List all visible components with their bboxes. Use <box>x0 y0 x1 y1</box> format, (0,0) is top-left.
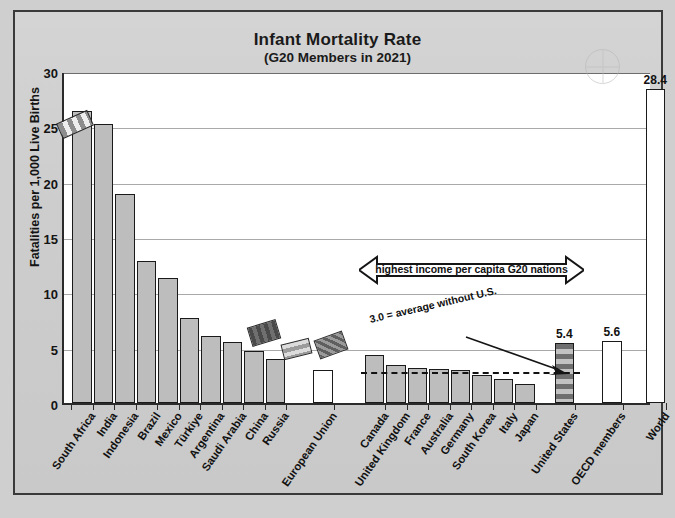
average-note-label: 3.0 = average without U.S. <box>368 284 497 325</box>
gridline <box>64 73 650 74</box>
x-axis-tick-mark <box>407 403 408 410</box>
y-axis-tick-label: 20 <box>26 176 58 191</box>
x-axis-tick-mark <box>200 403 201 410</box>
flag-chip-icon <box>280 338 312 361</box>
x-axis-tick-mark <box>471 403 472 410</box>
flag-chip-icon <box>313 330 348 359</box>
x-axis-tick-mark <box>428 403 429 410</box>
bar <box>494 379 514 403</box>
x-axis-tick-mark <box>265 403 266 410</box>
globe-watermark-icon <box>585 49 620 84</box>
income-range-label: highest income per capita G20 nations <box>359 263 584 275</box>
bar <box>244 351 264 403</box>
y-axis-ticks: 051015202530 <box>18 73 58 405</box>
bar: 5.6 <box>602 341 622 403</box>
x-axis-tick-mark <box>243 403 244 410</box>
x-axis-tick-mark <box>179 403 180 410</box>
x-axis-tick-mark <box>623 403 624 410</box>
bar <box>115 194 135 403</box>
average-leader-arrow-icon <box>464 335 569 377</box>
bar <box>94 124 114 403</box>
x-axis-tick-mark <box>575 403 576 410</box>
y-axis-tick-label: 25 <box>26 121 58 136</box>
bar <box>313 370 333 403</box>
plot-area: 5.45.628.4 highest income per capita G20… <box>62 73 650 405</box>
bar <box>472 375 492 403</box>
flag-chip-icon <box>247 319 282 347</box>
x-axis-tick-mark <box>222 403 223 410</box>
bar <box>72 111 92 403</box>
bar <box>137 261 157 403</box>
x-axis-tick-mark <box>385 403 386 410</box>
bar <box>180 318 200 403</box>
x-axis-tick-mark <box>493 403 494 410</box>
bar <box>365 355 385 403</box>
bar <box>515 384 535 403</box>
x-axis-tick-mark <box>136 403 137 410</box>
x-axis-tick-mark <box>157 403 158 410</box>
y-axis-tick-label: 5 <box>26 342 58 357</box>
x-axis-tick-mark <box>286 403 287 410</box>
y-axis-tick-label: 10 <box>26 287 58 302</box>
x-axis-tick-mark <box>514 403 515 410</box>
x-axis-tick-mark <box>536 403 537 410</box>
gridline <box>64 128 650 129</box>
bar <box>266 359 286 403</box>
x-axis-tick-mark <box>93 403 94 410</box>
y-axis-tick-label: 0 <box>26 398 58 413</box>
x-axis-tick-mark <box>114 403 115 410</box>
gridline <box>64 184 650 185</box>
x-axis-tick-mark <box>450 403 451 410</box>
bar-value-label: 5.6 <box>603 325 620 339</box>
x-axis-tick-mark <box>666 403 667 410</box>
y-axis-tick-label: 15 <box>26 232 58 247</box>
bar: 28.4 <box>646 89 666 403</box>
bar <box>223 342 243 403</box>
bar <box>429 369 449 403</box>
chart-canvas: Infant Mortality Rate (G20 Members in 20… <box>0 0 675 518</box>
y-axis-tick-label: 30 <box>26 66 58 81</box>
bar <box>201 336 221 404</box>
bar <box>158 278 178 403</box>
bar-value-label: 28.4 <box>644 73 667 87</box>
x-axis-tick-mark <box>71 403 72 410</box>
gridline <box>64 239 650 240</box>
x-axis-tick-mark <box>334 403 335 410</box>
